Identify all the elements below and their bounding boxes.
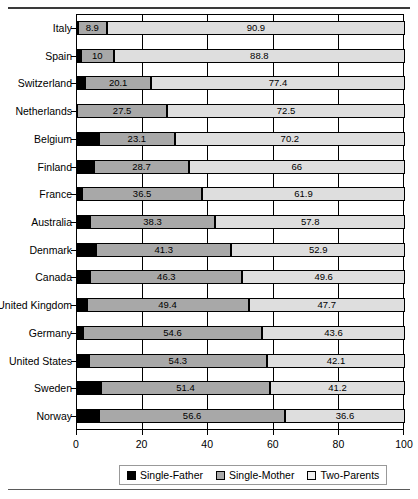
legend-item-single-mother[interactable]: Single-Mother (216, 469, 294, 481)
y-axis-tick (71, 361, 76, 362)
x-axis-tick-label: 20 (122, 438, 162, 450)
bar-segment-father (77, 270, 90, 284)
bar-value-label: 88.8 (115, 50, 404, 62)
bar-row: 36.561.9 (77, 187, 405, 201)
bar-segment-two: 42.1 (267, 354, 405, 368)
x-axis-tick (142, 430, 143, 435)
bar-row: 51.441.2 (77, 381, 405, 395)
bar-value-label: 41.2 (271, 382, 404, 394)
y-axis-tick (71, 111, 76, 112)
bar-value-label: 28.7 (95, 161, 187, 173)
bar-value-label: 51.4 (102, 382, 269, 394)
bar-segment-two: 47.7 (249, 298, 405, 312)
bar-segment-mother: 46.3 (90, 270, 242, 284)
bar-value-label: 54.6 (84, 327, 261, 339)
y-axis-tick (71, 305, 76, 306)
bar-value-label: 72.5 (168, 105, 404, 117)
y-axis-tick (71, 333, 76, 334)
y-axis-label-norway: Norway (36, 409, 72, 423)
bar-value-label: 36.5 (83, 188, 201, 200)
x-axis-tick (403, 430, 404, 435)
bar-segment-father (77, 298, 87, 312)
y-axis-label-sweden: Sweden (34, 381, 72, 395)
bar-row: 54.643.6 (77, 326, 405, 340)
y-axis-label-denmark: Denmark (29, 243, 72, 257)
bar-segment-two: 49.6 (242, 270, 405, 284)
stacked-bar-chart: ItalySpainSwitzerlandNetherlandsBelgiumF… (0, 14, 418, 454)
bar-row: 54.342.1 (77, 354, 405, 368)
y-axis-label-italy: Italy (53, 21, 72, 35)
y-axis-tick (71, 388, 76, 389)
bar-segment-two: 57.8 (215, 215, 405, 229)
bar-segment-mother: 10 (81, 49, 114, 63)
bar-segment-mother: 36.5 (82, 187, 202, 201)
bar-value-label: 8.9 (79, 22, 106, 34)
bar-segment-two: 66 (189, 160, 405, 174)
bar-segment-father (77, 160, 94, 174)
bar-value-label: 23.1 (100, 133, 174, 145)
y-axis-tick (71, 416, 76, 417)
bar-segment-mother: 56.6 (99, 409, 285, 423)
bar-segment-father (77, 243, 96, 257)
bar-segment-father (77, 409, 99, 423)
bar-row: 23.170.2 (77, 132, 405, 146)
y-axis-tick (71, 167, 76, 168)
y-axis-label-finland: Finland (38, 160, 72, 174)
bar-segment-father (77, 76, 85, 90)
bar-value-label: 27.5 (78, 105, 166, 117)
bar-value-label: 49.4 (88, 299, 248, 311)
x-axis: 020406080100 (76, 430, 404, 454)
y-axis-label-spain: Spain (45, 49, 72, 63)
bar-value-label: 77.4 (152, 77, 404, 89)
y-axis-tick (71, 139, 76, 140)
bar-segment-two: 36.6 (285, 409, 405, 423)
x-axis-tick-label: 40 (187, 438, 227, 450)
bar-segment-two: 70.2 (175, 132, 405, 146)
bar-segment-two: 72.5 (167, 104, 405, 118)
bar-value-label: 54.3 (90, 355, 266, 367)
bar-segment-mother: 38.3 (90, 215, 216, 229)
plot-area: 8.990.91088.820.177.427.572.523.170.228.… (76, 14, 404, 430)
x-axis-tick (76, 430, 77, 435)
y-axis-tick (71, 277, 76, 278)
bar-segment-mother: 51.4 (101, 381, 270, 395)
bar-value-label: 10 (82, 50, 113, 62)
bar-value-label: 66 (190, 161, 404, 173)
bar-segment-father (77, 381, 101, 395)
bar-segment-mother: 54.6 (83, 326, 262, 340)
bar-segment-two: 61.9 (202, 187, 405, 201)
x-axis-tick-label: 0 (56, 438, 96, 450)
legend-label: Two-Parents (320, 469, 379, 481)
chart-legend: Single-FatherSingle-MotherTwo-Parents (119, 465, 387, 485)
legend-item-two-parents[interactable]: Two-Parents (307, 469, 379, 481)
legend-label: Single-Mother (229, 469, 294, 481)
y-axis-tick (71, 194, 76, 195)
bar-segment-mother: 54.3 (89, 354, 267, 368)
bar-row: 49.447.7 (77, 298, 405, 312)
y-axis-label-australia: Australia (31, 215, 72, 229)
legend-swatch-icon (127, 471, 136, 480)
bar-value-label: 20.1 (86, 77, 150, 89)
x-axis-tick (207, 430, 208, 435)
bar-value-label: 70.2 (176, 133, 404, 145)
chart-page: ItalySpainSwitzerlandNetherlandsBelgiumF… (0, 0, 418, 499)
bar-value-label: 38.3 (91, 216, 215, 228)
bar-row: 20.177.4 (77, 76, 405, 90)
y-axis-label-germany: Germany (29, 326, 72, 340)
bar-segment-mother: 41.3 (96, 243, 231, 257)
x-axis-tick-label: 60 (253, 438, 293, 450)
y-axis-tick (71, 83, 76, 84)
bar-value-label: 61.9 (203, 188, 404, 200)
bar-segment-father (77, 354, 89, 368)
bar-segment-father (77, 132, 99, 146)
y-axis-label-united-states: United States (9, 354, 72, 368)
bar-value-label: 46.3 (91, 271, 241, 283)
bottom-divider-rule (8, 489, 410, 490)
bar-segment-father (77, 215, 90, 229)
bar-segment-two: 90.9 (107, 21, 405, 35)
bar-value-label: 41.3 (97, 244, 230, 256)
bar-segment-mother: 27.5 (77, 104, 167, 118)
legend-item-single-father[interactable]: Single-Father (127, 469, 203, 481)
bar-row: 27.572.5 (77, 104, 405, 118)
bar-value-label: 49.6 (243, 271, 404, 283)
